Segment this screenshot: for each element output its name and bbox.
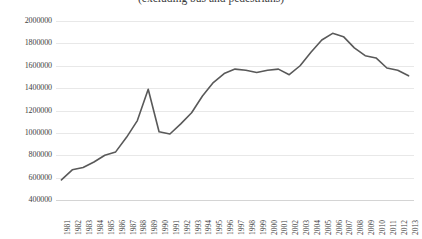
x-axis-tick-label: 1981 <box>64 203 72 235</box>
y-axis-tick-label: 2000000 <box>0 17 52 25</box>
x-axis-tick-label: 2013 <box>412 203 420 235</box>
y-axis-tick-labels: 2000000180000016000001400000120000010000… <box>0 0 52 239</box>
line-chart: (excluding bus and pedestrians) 20000001… <box>0 0 422 239</box>
y-axis-tick-label: 1400000 <box>0 84 52 92</box>
x-axis-tick-label: 2011 <box>390 203 398 235</box>
y-axis-tick-label: 1000000 <box>0 129 52 137</box>
x-axis-tick-label: 1986 <box>119 203 127 235</box>
x-axis-tick-label: 2001 <box>281 203 289 235</box>
x-axis-tick-label: 1984 <box>97 203 105 235</box>
x-axis-tick-label: 2004 <box>314 203 322 235</box>
x-axis-tick-label: 2003 <box>303 203 311 235</box>
x-axis-tick-label: 2012 <box>401 203 409 235</box>
x-axis-tick-label: 1990 <box>162 203 170 235</box>
chart-title: (excluding bus and pedestrians) <box>0 0 422 5</box>
x-axis-tick-label: 1994 <box>205 203 213 235</box>
y-axis-tick-label: 600000 <box>0 174 52 182</box>
y-axis-tick-label: 1200000 <box>0 107 52 115</box>
x-axis-tick-label: 1982 <box>75 203 83 235</box>
y-axis-tick-label: 1600000 <box>0 62 52 70</box>
x-axis-tick-label: 1995 <box>216 203 224 235</box>
x-axis-line <box>56 200 414 201</box>
x-axis-tick-label: 1985 <box>108 203 116 235</box>
x-axis-tick-label: 2000 <box>271 203 279 235</box>
x-axis-tick-label: 1988 <box>140 203 148 235</box>
x-axis-tick-label: 1999 <box>260 203 268 235</box>
x-axis-tick-label: 2007 <box>346 203 354 235</box>
x-axis-tick-label: 1993 <box>195 203 203 235</box>
series-line-total <box>56 21 414 200</box>
series-polyline <box>61 33 408 180</box>
y-axis-tick-label: 400000 <box>0 196 52 204</box>
plot-area <box>56 21 414 200</box>
x-axis-tick-label: 1998 <box>249 203 257 235</box>
x-axis-tick-label: 2002 <box>292 203 300 235</box>
x-axis-tick-label: 1983 <box>86 203 94 235</box>
y-axis-tick-label: 800000 <box>0 151 52 159</box>
x-axis-tick-label: 1989 <box>151 203 159 235</box>
x-axis-tick-label: 2008 <box>357 203 365 235</box>
x-axis-tick-labels: 1981198219831984198519861987198819891990… <box>56 203 414 239</box>
x-axis-tick-label: 1987 <box>130 203 138 235</box>
x-axis-tick-label: 2006 <box>336 203 344 235</box>
x-axis-tick-label: 2005 <box>325 203 333 235</box>
x-axis-tick-label: 1991 <box>173 203 181 235</box>
x-axis-tick-label: 1996 <box>227 203 235 235</box>
y-axis-tick-label: 1800000 <box>0 39 52 47</box>
x-axis-tick-label: 2010 <box>379 203 387 235</box>
x-axis-tick-label: 1997 <box>238 203 246 235</box>
x-axis-tick-label: 1992 <box>184 203 192 235</box>
x-axis-tick-label: 2009 <box>368 203 376 235</box>
